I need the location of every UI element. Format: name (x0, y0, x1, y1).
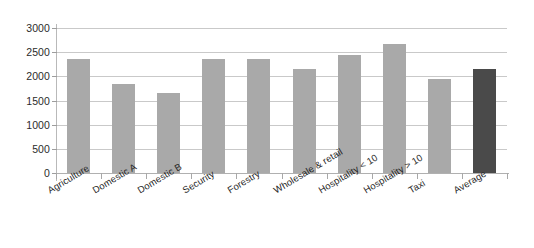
gridline-2000 (56, 76, 507, 77)
x-tick-mark-end (507, 173, 508, 179)
y-tick-label-500: 500 (6, 144, 50, 155)
x-tick-mark-3 (191, 173, 192, 179)
y-tick-mark-500 (52, 149, 57, 150)
bar-forestry (247, 59, 270, 173)
x-tick-mark-0 (56, 173, 57, 179)
bar-agriculture (67, 59, 90, 173)
y-tick-label-2000: 2000 (6, 71, 50, 82)
x-tick-mark-9 (462, 173, 463, 179)
y-axis-tick-labels: 300025002000150010005000 (0, 0, 50, 248)
y-axis-line (56, 24, 57, 181)
y-tick-mark-2500 (52, 52, 57, 53)
y-tick-label-1000: 1000 (6, 119, 50, 130)
bar-wholesale-retail (293, 69, 316, 173)
bar-taxi (428, 79, 451, 173)
x-tick-mark-2 (146, 173, 147, 179)
bar-hospitality-10 (383, 44, 406, 173)
x-tick-mark-8 (417, 173, 418, 179)
y-tick-mark-1500 (52, 101, 57, 102)
y-tick-mark-2000 (52, 76, 57, 77)
x-tick-mark-7 (372, 173, 373, 179)
bar-average (473, 69, 496, 173)
x-tick-label-taxi: Taxi (407, 178, 427, 195)
plot-area (56, 28, 507, 173)
x-tick-mark-4 (236, 173, 237, 179)
x-tick-mark-5 (282, 173, 283, 179)
gridline-3000 (56, 28, 507, 29)
x-tick-mark-6 (327, 173, 328, 179)
gridline-2500 (56, 52, 507, 53)
y-tick-label-1500: 1500 (6, 95, 50, 106)
bar-hospitality-10 (338, 55, 361, 173)
y-tick-label-3000: 3000 (6, 23, 50, 34)
y-tick-label-0: 0 (6, 168, 50, 179)
y-tick-mark-1000 (52, 125, 57, 126)
x-axis-line (52, 173, 509, 174)
bar-domestic-a (112, 84, 135, 173)
bar-domestic-b (157, 93, 180, 173)
bar-security (202, 59, 225, 173)
y-tick-label-2500: 2500 (6, 47, 50, 58)
y-tick-mark-3000 (52, 28, 57, 29)
bar-chart: 300025002000150010005000 AgricultureDome… (0, 0, 534, 248)
x-tick-mark-1 (101, 173, 102, 179)
